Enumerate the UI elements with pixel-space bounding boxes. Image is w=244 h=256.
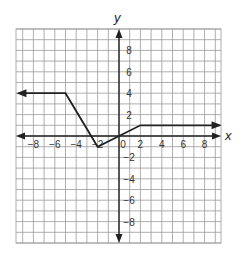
y-tick-label: −8 — [123, 217, 135, 228]
y-tick-label: 2 — [126, 110, 132, 121]
x-tick-label: −4 — [70, 139, 82, 150]
x-axis-label: x — [224, 128, 232, 143]
y-axis-down-arrow-icon — [116, 234, 123, 243]
x-tick-label: −8 — [28, 139, 40, 150]
y-tick-label: 6 — [126, 67, 132, 78]
x-tick-label: 8 — [202, 139, 208, 150]
graph-right-arrow-icon — [212, 121, 222, 129]
x-tick-label: 6 — [180, 139, 186, 150]
y-axis-up-arrow-icon — [116, 29, 123, 38]
y-tick-label: 8 — [126, 45, 132, 56]
y-tick-label: −6 — [123, 195, 135, 206]
x-tick-label: 2 — [138, 139, 144, 150]
y-tick-label: −4 — [123, 174, 135, 185]
x-axis-right-arrow-icon — [212, 133, 221, 140]
y-tick-label: 4 — [126, 88, 132, 99]
y-axis-label: y — [113, 10, 122, 25]
x-tick-label: 0 — [120, 139, 126, 150]
coordinate-plane: −8−6−4−202468−8−6−4−22468 x y — [0, 0, 244, 256]
x-tick-label: 4 — [159, 139, 165, 150]
y-tick-label: −2 — [123, 152, 135, 163]
graph-left-arrow-icon — [16, 89, 26, 97]
x-axis-left-arrow-icon — [16, 133, 25, 140]
x-tick-label: −6 — [49, 139, 61, 150]
